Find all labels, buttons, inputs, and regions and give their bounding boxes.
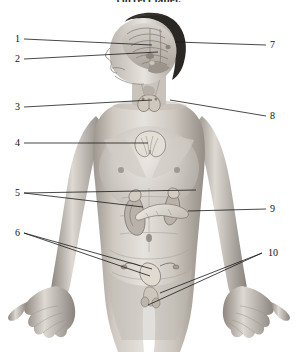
label-10[interactable]: 10 bbox=[268, 248, 292, 258]
figure-body bbox=[8, 13, 290, 352]
label-4[interactable]: 4 bbox=[8, 138, 20, 148]
label-5[interactable]: 5 bbox=[8, 188, 20, 198]
label-9[interactable]: 9 bbox=[270, 204, 290, 214]
thymus bbox=[135, 131, 166, 157]
label-1[interactable]: 1 bbox=[8, 34, 20, 44]
head bbox=[106, 13, 186, 84]
label-6[interactable]: 6 bbox=[8, 228, 20, 238]
diagram-canvas: correct label. bbox=[0, 0, 298, 358]
label-2[interactable]: 2 bbox=[8, 54, 20, 64]
anatomical-figure-illustration bbox=[0, 0, 298, 358]
label-3[interactable]: 3 bbox=[8, 102, 20, 112]
label-7[interactable]: 7 bbox=[270, 40, 290, 50]
label-8[interactable]: 8 bbox=[270, 111, 290, 121]
